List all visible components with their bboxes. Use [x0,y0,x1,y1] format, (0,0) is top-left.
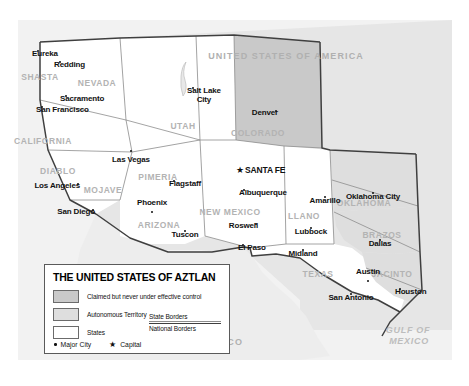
region-label: DIABLO [40,167,76,176]
capital-city-label: SANTA FE [245,166,285,175]
city-label: Eureka [32,50,58,58]
city-label: San Antonio [328,294,373,302]
city-label: San Diego [57,208,95,216]
city-label: Las Vegas [112,156,150,164]
map-legend: THE UNITED STATES OF AZTLAN Claimed but … [44,264,230,354]
region-label: LLANO [288,212,320,221]
city-label-line1: Salt Lake [187,86,221,95]
legend-title: THE UNITED STATES OF AZTLAN [53,271,222,283]
city-label: Dallas [369,240,392,248]
legend-label-state-borders: State Borders [149,313,221,320]
legend-row-claimed: Claimed but never under effective contro… [53,288,222,304]
capital-star-marker: ★ [236,166,244,175]
legend-label-claimed: Claimed but never under effective contro… [87,293,201,300]
region-label: CALIFORNIA [14,137,72,146]
region-label: COLORADO [231,129,285,138]
city-label: Austin [356,268,380,276]
country-label: UNITED STATES OF AMERICA [208,52,364,61]
legend-line-state-border [149,321,221,322]
legend-border-key: State Borders National Borders [149,313,221,332]
region-label: NEW MEXICO [199,208,260,217]
legend-swatch-claimed [53,290,79,303]
city-label: Salt LakeCity [187,86,221,104]
region-label: SHASTA [21,73,59,82]
legend-major-city-dot [54,343,57,346]
city-label: Lubbock [295,228,327,236]
city-label: Houston [395,288,426,296]
map-container: UNITED STATES OF AMERICAMEXICOGULF OFMEX… [0,0,469,386]
city-label: Los Angeles [34,182,80,190]
region-label: MOJAVE [84,186,123,195]
region-label: TEXAS [302,270,333,279]
legend-label-autonomous: Autonomous Territory [87,311,147,318]
legend-swatch-autonomous [53,308,79,321]
city-label: Amarillo [310,197,341,205]
city-label: Sacramento [60,95,104,103]
city-label: Tuscon [172,231,199,239]
city-label: El Paso [238,244,266,252]
region-label: NEVADA [78,79,117,88]
legend-capital-star: ★ [109,340,116,349]
legend-label-capital: Capital [120,341,141,348]
legend-swatch-states [53,326,79,339]
region-label: UTAH [170,122,195,131]
legend-label-states: States [87,329,105,336]
city-label: Midland [288,250,317,258]
ocean-label: MEXICO [389,337,429,346]
legend-line-national-border [149,323,221,324]
city-label: Redding [54,61,85,69]
city-label: Oklahoma City [346,193,400,201]
city-label: Phoenix [137,199,167,207]
legend-city-key: Major City ★ Capital [54,340,141,349]
legend-label-major-city: Major City [61,341,92,348]
city-label: Flagstaff [169,180,201,188]
region-label: ARIZONA [138,221,181,230]
ocean-label: GULF OF [386,326,430,335]
city-label: Roswell [229,222,258,230]
city-label: Albuquerque [239,189,287,197]
city-label: Denver [252,109,278,117]
legend-label-national-borders: National Borders [149,325,221,332]
city-label-line2: City [187,95,221,104]
city-label: San Francisco [36,106,89,114]
